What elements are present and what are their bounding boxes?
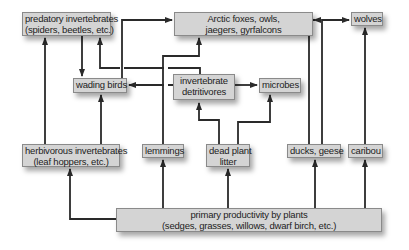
node-herbivorous-invertebrates: herbivorous invertebrates (leaf hoppers,…	[22, 144, 120, 167]
edge-ducks-to-arctic-head	[313, 17, 321, 23]
edge-litter-to-detritivores	[199, 103, 219, 144]
node-lemmings: lemmings	[142, 144, 184, 158]
node-arctic-predators: Arctic foxes, owls, jaegers, gyrfalcons	[174, 12, 313, 36]
edge-primary-to-herbivorous	[70, 169, 116, 219]
node-ducks-geese: ducks, geese	[287, 144, 341, 158]
edge-primary-to-ducks	[315, 160, 381, 214]
node-caribou: caribou	[348, 144, 383, 158]
node-wolves: wolves	[351, 12, 383, 26]
edge-ducks-to-wolves	[322, 20, 349, 144]
node-predatory-invertebrates: predatory invertebrates (spiders, beetle…	[22, 12, 111, 36]
node-primary-productivity: primary productivity by plants (sedges, …	[116, 208, 382, 232]
node-dead-plant-litter: dead plant litter	[206, 144, 250, 167]
edge-litter-to-microbes	[238, 95, 270, 144]
edge-ducks-to-arctic	[309, 20, 315, 144]
node-microbes: microbes	[259, 78, 301, 93]
food-web-diagram: predatory invertebrates (spiders, beetle…	[0, 0, 409, 250]
node-wading-birds: wading birds	[73, 78, 127, 93]
edge-wading-to-arctic	[122, 20, 172, 79]
node-invertebrate-detritivores: invertebrate detritivores	[173, 74, 235, 100]
